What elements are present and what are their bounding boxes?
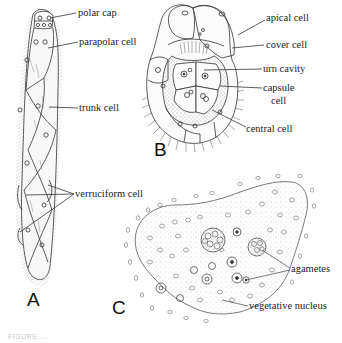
label-polar-cap: polar cap xyxy=(78,8,117,19)
panel-letter-a: A xyxy=(27,290,40,309)
label-central-cell: central cell xyxy=(246,124,292,135)
label-urn-cavity: urn cavity xyxy=(263,64,305,75)
label-cover-cell: cover cell xyxy=(266,40,307,51)
label-capsule: capsule xyxy=(263,83,295,94)
panel-letter-b: B xyxy=(154,140,167,159)
figure-caption: FIGURE ... xyxy=(8,333,47,340)
label-agametes: agametes xyxy=(291,264,330,275)
scientific-illustration xyxy=(0,0,342,343)
panel-a-organism xyxy=(16,9,78,285)
label-capsule-cell: cell xyxy=(271,96,286,107)
label-vegetative-nucleus: vegetative nucleus xyxy=(249,301,327,312)
label-apical-cell: apical cell xyxy=(266,13,309,24)
label-verruciform-cell: verruciform cell xyxy=(75,189,143,200)
label-parapolar-cell: parapolar cell xyxy=(79,37,136,48)
label-trunk-cell: trunk cell xyxy=(79,103,119,114)
panel-letter-c: C xyxy=(112,298,126,317)
